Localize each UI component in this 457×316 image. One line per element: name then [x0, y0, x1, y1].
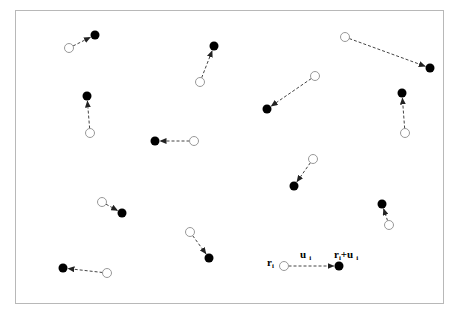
displacement-arrows — [59, 31, 435, 278]
dashed-arrow — [68, 269, 103, 273]
dashed-arrow — [297, 163, 311, 182]
origin-point-icon — [103, 269, 112, 278]
displacement-vector — [290, 155, 318, 191]
origin-point-icon — [196, 78, 205, 87]
displacement-vector — [280, 262, 344, 271]
displaced-point-icon — [205, 254, 214, 263]
origin-point-icon — [341, 33, 350, 42]
displacement-vector — [196, 42, 219, 87]
dashed-arrow — [202, 51, 213, 78]
displacement-vector — [83, 92, 95, 138]
origin-point-icon — [385, 221, 394, 230]
displaced-point-icon — [398, 89, 407, 98]
origin-point-icon — [190, 137, 199, 146]
displacement-vector — [59, 264, 112, 278]
displaced-point-icon — [263, 105, 272, 114]
dashed-arrow — [271, 79, 311, 107]
origin-point-icon — [65, 44, 74, 53]
legend-target-label: ri+ui — [334, 248, 358, 262]
dashed-arrow — [384, 209, 388, 221]
displaced-point-icon — [59, 264, 68, 273]
displaced-point-icon — [290, 182, 299, 191]
displacement-vector — [151, 137, 199, 146]
dashed-arrow — [87, 101, 89, 129]
origin-point-icon — [98, 198, 107, 207]
displaced-point-icon — [210, 42, 219, 51]
displacement-diagram: ri ui ri+ui — [0, 0, 457, 316]
displacement-vector — [378, 200, 394, 230]
displaced-point-icon — [83, 92, 92, 101]
displaced-point-icon — [426, 64, 435, 73]
displaced-point-icon — [378, 200, 387, 209]
legend-vector-label: ui — [300, 248, 311, 262]
origin-point-icon — [186, 228, 195, 237]
displacement-vector — [65, 31, 100, 53]
legend-origin-label: ri — [267, 256, 274, 270]
origin-point-icon — [311, 72, 320, 81]
dashed-arrow — [73, 37, 91, 46]
displaced-point-icon — [118, 209, 127, 218]
dashed-arrow — [349, 39, 425, 67]
dashed-arrow — [106, 204, 118, 210]
dashed-arrow — [402, 98, 404, 129]
displaced-point-icon — [91, 31, 100, 40]
dashed-arrow — [193, 236, 206, 254]
displacement-vector — [186, 228, 214, 263]
origin-point-icon — [309, 155, 318, 164]
displacement-vector — [398, 89, 410, 138]
displaced-point-icon — [151, 137, 160, 146]
displaced-point-icon — [335, 262, 344, 271]
displacement-vector — [341, 33, 435, 73]
origin-point-icon — [86, 129, 95, 138]
displacement-vector — [263, 72, 320, 114]
origin-point-icon — [401, 129, 410, 138]
displacement-vector — [98, 198, 127, 218]
origin-point-icon — [280, 262, 289, 271]
